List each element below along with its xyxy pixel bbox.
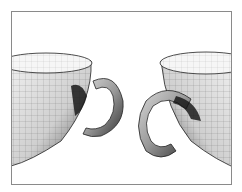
figure-frame xyxy=(11,11,232,185)
left-cup xyxy=(12,53,92,166)
wireframe-scene xyxy=(12,12,231,184)
